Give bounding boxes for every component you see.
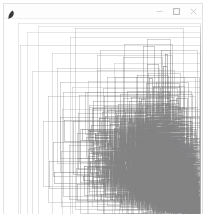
canvas-area[interactable] [4, 19, 202, 214]
application-window [3, 3, 203, 214]
minimize-button[interactable] [151, 4, 168, 19]
recursive-rectangles-canvas[interactable] [4, 19, 202, 214]
feather-icon [7, 6, 15, 16]
title-bar[interactable] [4, 4, 202, 19]
close-button[interactable] [185, 4, 202, 19]
maximize-button[interactable] [168, 4, 185, 19]
